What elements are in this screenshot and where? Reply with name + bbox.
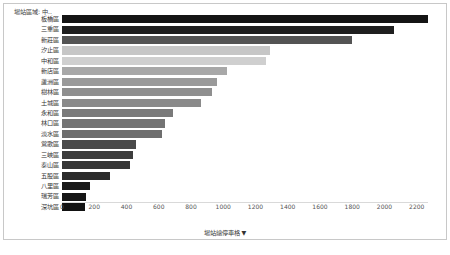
x-tick-label: 1600	[312, 203, 327, 210]
bar-row[interactable]: 永和區	[0, 108, 450, 118]
x-tick-label: 400	[121, 203, 132, 210]
bar-row[interactable]: 汐止區	[0, 45, 450, 55]
bar[interactable]	[62, 67, 227, 75]
bar[interactable]	[62, 151, 133, 159]
bar[interactable]	[62, 119, 165, 127]
bar-category-label: 蘆洲區	[41, 77, 59, 87]
bar[interactable]	[62, 88, 212, 96]
bar-row[interactable]: 新莊區	[0, 35, 450, 45]
bar-row[interactable]: 土城區	[0, 98, 450, 108]
x-tick-label: 600	[153, 203, 164, 210]
bar-row[interactable]: 林口區	[0, 118, 450, 128]
bar-category-label: 土城區	[41, 98, 59, 108]
bar-category-label: 林口區	[41, 118, 59, 128]
bar[interactable]	[62, 99, 201, 107]
bar[interactable]	[62, 26, 394, 34]
x-tick-label: 1400	[280, 203, 295, 210]
bar-row[interactable]: 中和區	[0, 56, 450, 66]
x-tick-label: 1000	[216, 203, 231, 210]
bar-row[interactable]: 五股區	[0, 171, 450, 181]
bar-row[interactable]: 淡水區	[0, 129, 450, 139]
bar-category-label: 三重區	[41, 24, 59, 34]
bar-category-label: 汐止區	[41, 45, 59, 55]
bar[interactable]	[62, 161, 130, 169]
bar-row[interactable]: 三重區	[0, 24, 450, 34]
x-tick-label: 2000	[377, 203, 392, 210]
bar-category-label: 瑞芳區	[41, 191, 59, 201]
bar-row[interactable]: 板橋區	[0, 14, 450, 24]
x-tick-label: 2200	[409, 203, 424, 210]
bar-category-label: 八里區	[41, 181, 59, 191]
bar-category-label: 泰山區	[41, 160, 59, 170]
chart-container: 場站區域: 中.. 板橋區三重區新莊區汐止區中和區新店區蘆洲區樹林區土城區永和區…	[0, 0, 450, 255]
bar-category-label: 鶯歌區	[41, 139, 59, 149]
bar-category-label: 新店區	[41, 66, 59, 76]
bar[interactable]	[62, 15, 428, 23]
x-tick-label: 1800	[345, 203, 360, 210]
bar[interactable]	[62, 140, 136, 148]
bar-category-label: 淡水區	[41, 129, 59, 139]
bar-rows: 板橋區三重區新莊區汐止區中和區新店區蘆洲區樹林區土城區永和區林口區淡水區鶯歌區三…	[0, 14, 450, 202]
bar-category-label: 樹林區	[41, 87, 59, 97]
bar[interactable]	[62, 172, 110, 180]
x-tick-label: 0	[60, 203, 64, 210]
bar-row[interactable]: 八里區	[0, 181, 450, 191]
bar-row[interactable]: 瑞芳區	[0, 191, 450, 201]
bar-row[interactable]: 新店區	[0, 66, 450, 76]
bar-row[interactable]: 鶯歌區	[0, 139, 450, 149]
bar-category-label: 板橋區	[41, 14, 59, 24]
bar-row[interactable]: 三峽區	[0, 150, 450, 160]
bar-category-label: 中和區	[41, 56, 59, 66]
bar[interactable]	[62, 78, 217, 86]
bar-row[interactable]: 樹林區	[0, 87, 450, 97]
bar-category-label: 永和區	[41, 108, 59, 118]
x-tick-label: 1200	[248, 203, 263, 210]
bar-category-label: 三峽區	[41, 150, 59, 160]
x-tick-label: 800	[185, 203, 196, 210]
bar[interactable]	[62, 57, 266, 65]
bar-category-label: 新莊區	[41, 35, 59, 45]
bar-row[interactable]: 蘆洲區	[0, 77, 450, 87]
bar[interactable]	[62, 36, 352, 44]
x-axis-ticks: 0200400600800100012001400160018002000220…	[0, 203, 450, 217]
x-tick-label: 200	[89, 203, 100, 210]
bar-row[interactable]: 泰山區	[0, 160, 450, 170]
bar-category-label: 五股區	[41, 171, 59, 181]
bar[interactable]	[62, 182, 90, 190]
bar[interactable]	[62, 46, 270, 54]
bar[interactable]	[62, 130, 162, 138]
bar[interactable]	[62, 109, 173, 117]
bar[interactable]	[62, 193, 86, 201]
x-axis-title: 場站總停車格 ▼	[0, 228, 450, 237]
